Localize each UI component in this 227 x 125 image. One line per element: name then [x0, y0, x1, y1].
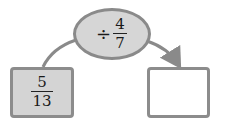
operator-symbol: ÷ — [96, 23, 111, 44]
input-numerator: 5 — [37, 74, 47, 90]
operator-numerator: 4 — [115, 16, 125, 32]
operator-node: ÷ 4 7 — [73, 8, 151, 60]
input-connector — [43, 40, 76, 67]
input-fraction: 5 13 — [31, 74, 53, 109]
input-box: 5 13 — [10, 67, 74, 118]
operator-denominator: 7 — [115, 35, 125, 51]
output-arrow-icon — [147, 41, 178, 64]
input-denominator: 13 — [32, 93, 51, 109]
operator-fraction: 4 7 — [113, 16, 127, 51]
output-answer-box[interactable] — [147, 67, 210, 118]
